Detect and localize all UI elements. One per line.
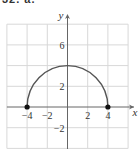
y-tick-label: 2 [60,81,65,92]
x-tick-label: 4 [105,110,110,121]
y-tick-label: −2 [54,123,65,134]
x-axis-label: x [132,106,138,118]
chart: −4−22462−2xy [0,0,139,149]
x-tick-label: −4 [22,110,33,121]
y-axis-label: y [58,9,64,21]
axes [7,14,134,149]
x-tick-label: −2 [42,110,53,121]
x-tick-label: 2 [85,110,90,121]
tick-labels: −4−22462−2xy [22,9,138,134]
endpoint-dot [25,104,30,109]
endpoint-dot [105,104,110,109]
y-tick-label: 6 [60,40,65,51]
